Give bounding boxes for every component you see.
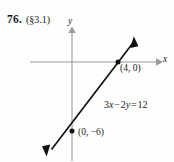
point-label-x-intercept: (4, 0) — [120, 64, 141, 74]
y-axis — [68, 27, 75, 162]
exercise-figure: 76. (§3.1) y x (4, 0) (0, −6) 3x − 2y = … — [0, 0, 174, 161]
exercise-number: 76. — [7, 14, 22, 26]
equation-var-y: y — [126, 99, 130, 110]
plotted-line — [42, 36, 138, 156]
equation-equals: = — [131, 99, 137, 110]
plotted-line-arrowhead-upper — [130, 36, 138, 48]
y-axis-label: y — [68, 17, 72, 27]
point-marker-y-intercept — [70, 129, 75, 134]
x-axis-arrowhead — [156, 58, 163, 65]
equation-operator: − — [114, 99, 120, 110]
line-equation-label: 3x − 2y = 12 — [104, 100, 148, 110]
section-reference: (§3.1) — [26, 15, 50, 25]
point-label-y-intercept: (0, −6) — [78, 128, 104, 138]
plotted-line-arrowhead-lower — [42, 145, 50, 157]
equation-var-x: x — [109, 99, 113, 110]
equation-constant: 12 — [138, 99, 148, 110]
x-axis — [30, 58, 163, 65]
y-axis-arrowhead — [68, 27, 75, 34]
x-axis-label: x — [163, 55, 167, 65]
